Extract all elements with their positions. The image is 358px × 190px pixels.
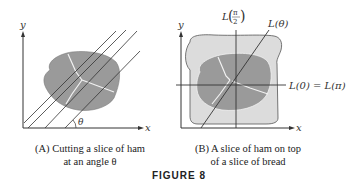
figure-label: FIGURE 8 [0,170,358,181]
label-l-theta: L(θ) [267,18,289,29]
panel-a-caption: (A) Cutting a slice of ham at an angle θ [20,142,160,168]
panel-a-caption-line1: (A) Cutting a slice of ham [20,142,160,155]
panel-a-diagram [21,30,144,130]
panel-b-caption-line1: (B) A slice of ham on top [178,142,318,155]
label-l-pi-over-2-denominator: 2 [233,18,237,26]
label-l-pi-over-2-close-paren: ) [240,8,245,24]
panel-b-x-arrow-icon [289,126,295,130]
panel-a-x-arrow-icon [138,126,144,130]
label-l-pi-over-2-numerator: π [233,9,238,17]
panel-b-y-label: y [177,19,184,30]
panel-b-y-arrow-icon [179,31,183,37]
panel-a-y-label: y [19,19,26,30]
panel-a-caption-line2: at an angle θ [20,155,160,168]
panel-a-x-label: x [145,122,151,133]
panel-b-x-label: x [296,122,302,133]
panel-b-caption-line2: of a slice of bread [178,155,318,168]
panel-a-y-arrow-icon [21,31,25,37]
angle-arc-icon [73,120,76,128]
panel-b-caption: (B) A slice of ham on top of a slice of … [178,142,318,168]
panel-b-diagram [176,30,295,130]
panel-a-angle-label: θ [78,117,84,127]
label-l-0-equals-l-pi: L(0) = L(π) [288,80,346,91]
